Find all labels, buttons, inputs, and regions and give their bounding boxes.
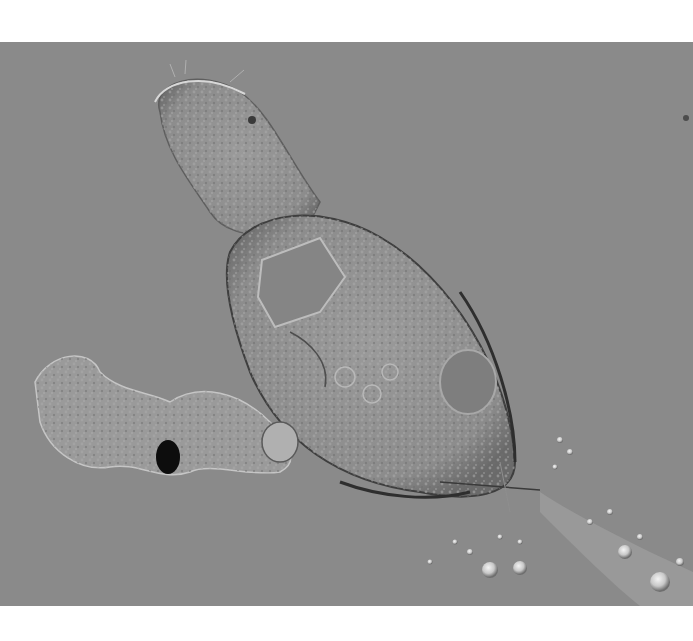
speck (683, 115, 689, 121)
micrograph-image (0, 42, 693, 606)
organism-head (155, 60, 320, 242)
micrograph-frame (0, 42, 693, 606)
dark-particle (156, 440, 180, 474)
egg-vesicle (440, 350, 496, 414)
